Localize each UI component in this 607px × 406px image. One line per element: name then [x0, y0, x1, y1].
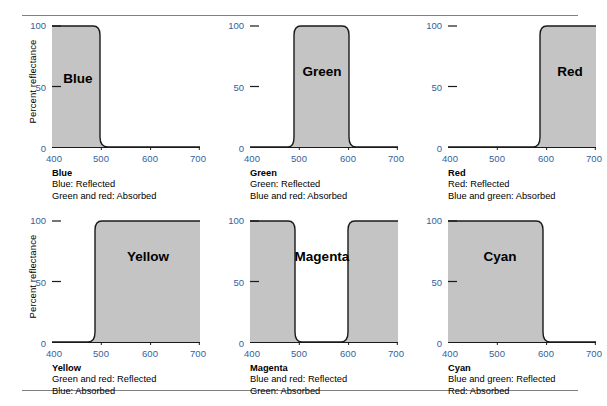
caption-line-1: Blue and green: Reflected: [448, 374, 607, 385]
area-fill-cyan: [448, 221, 596, 343]
caption-line-1: Red: Reflected: [448, 179, 607, 190]
x-tick-label-600: 600: [538, 154, 554, 164]
x-tick-label-400: 400: [244, 349, 260, 359]
area-fill-red: [448, 26, 596, 148]
panel-cyan: 100 50 0 Cyan 400 500 600: [406, 215, 602, 405]
plot-area-magenta: 100 50 0 Magenta: [250, 220, 398, 345]
area-fill-magenta: [250, 221, 398, 343]
curve-svg-cyan: [448, 220, 596, 345]
curve-label-magenta: Magenta: [295, 249, 350, 264]
x-tick-label-600: 600: [538, 349, 554, 359]
x-tick-label-700: 700: [586, 154, 602, 164]
caption-line-2: Red: Absorbed: [448, 386, 607, 397]
x-tick-label-500: 500: [93, 349, 109, 359]
y-tick-label-50: 50: [233, 278, 244, 288]
x-tick-label-600: 600: [340, 154, 356, 164]
plot-area-blue: 100 50 0 Blue: [52, 25, 200, 150]
x-tick-label-400: 400: [46, 154, 62, 164]
y-tick-label-100: 100: [426, 21, 442, 31]
panel-green: 100 50 0 Green 400 500 600: [208, 20, 404, 210]
area-fill-yellow: [52, 221, 200, 343]
y-tick-label-100: 100: [228, 21, 244, 31]
x-tick-labels-magenta: 400 500 600 700: [250, 349, 398, 363]
curve-label-red: Red: [557, 64, 583, 79]
plot-area-red: 100 50 0 Red: [448, 25, 596, 150]
curve-svg-yellow: [52, 220, 200, 345]
x-tick-labels-cyan: 400 500 600 700: [448, 349, 596, 363]
curve-svg-magenta: [250, 220, 398, 345]
x-tick-label-600: 600: [340, 349, 356, 359]
curve-svg-red: [448, 25, 596, 150]
panel-row-subtractive: Percent reflectance 100 50 0 Yellow: [0, 215, 600, 405]
y-tick-label-100: 100: [30, 216, 46, 226]
x-tick-label-700: 700: [388, 349, 404, 359]
plot-area-yellow: 100 50 0 Yellow: [52, 220, 200, 345]
x-tick-label-500: 500: [291, 154, 307, 164]
x-tick-label-400: 400: [442, 349, 458, 359]
caption-cyan: Cyan Blue and green: Reflected Red: Abso…: [448, 363, 607, 397]
x-tick-label-600: 600: [142, 349, 158, 359]
curve-svg-green: [250, 25, 398, 150]
x-tick-labels-red: 400 500 600 700: [448, 154, 596, 168]
y-tick-label-100: 100: [30, 21, 46, 31]
caption-title: Red: [448, 168, 607, 179]
x-tick-labels-green: 400 500 600 700: [250, 154, 398, 168]
curve-label-blue: Blue: [63, 71, 92, 86]
curve-label-cyan: Cyan: [483, 249, 516, 264]
panel-row-additive: Percent reflectance 100 50 0 Blue: [0, 20, 600, 210]
y-tick-label-50: 50: [35, 278, 46, 288]
x-tick-label-700: 700: [190, 154, 206, 164]
plot-area-cyan: 100 50 0 Cyan: [448, 220, 596, 345]
curve-label-green: Green: [302, 64, 341, 79]
y-tick-label-50: 50: [35, 83, 46, 93]
x-tick-label-700: 700: [586, 349, 602, 359]
x-tick-label-700: 700: [388, 154, 404, 164]
y-tick-label-100: 100: [426, 216, 442, 226]
x-tick-label-400: 400: [244, 154, 260, 164]
x-tick-label-500: 500: [291, 349, 307, 359]
x-tick-label-500: 500: [489, 154, 505, 164]
panel-blue: Percent reflectance 100 50 0 Blue: [10, 20, 206, 210]
caption-line-2: Blue and green: Absorbed: [448, 191, 607, 202]
x-tick-label-400: 400: [46, 349, 62, 359]
area-fill-blue: [52, 26, 200, 148]
y-tick-label-50: 50: [431, 83, 442, 93]
panel-yellow: Percent reflectance 100 50 0 Yellow: [10, 215, 206, 405]
x-tick-label-400: 400: [442, 154, 458, 164]
top-divider-rule: [22, 15, 578, 16]
x-tick-labels-yellow: 400 500 600 700: [52, 349, 200, 363]
panel-red: 100 50 0 Red 400 500 600: [406, 20, 602, 210]
y-tick-label-100: 100: [228, 216, 244, 226]
x-tick-label-500: 500: [489, 349, 505, 359]
x-tick-label-700: 700: [190, 349, 206, 359]
x-tick-label-600: 600: [142, 154, 158, 164]
panel-magenta: 100 50 0 Magenta 400 500 600: [208, 215, 404, 405]
y-tick-label-50: 50: [431, 278, 442, 288]
x-tick-label-500: 500: [93, 154, 109, 164]
plot-area-green: 100 50 0 Green: [250, 25, 398, 150]
caption-title: Cyan: [448, 363, 607, 374]
curve-svg-blue: [52, 25, 200, 150]
curve-label-yellow: Yellow: [127, 249, 169, 264]
caption-red: Red Red: Reflected Blue and green: Absor…: [448, 168, 607, 202]
y-tick-label-50: 50: [233, 83, 244, 93]
area-fill-green: [250, 26, 398, 148]
x-tick-labels-blue: 400 500 600 700: [52, 154, 200, 168]
